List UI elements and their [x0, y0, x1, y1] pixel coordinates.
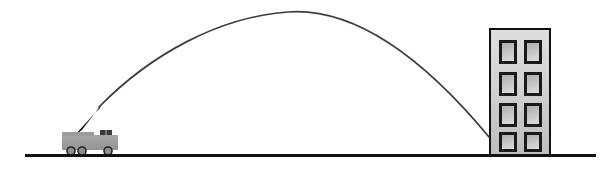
projectile-trajectory-path: [99, 12, 489, 137]
window-r1-c1: [501, 42, 516, 63]
window-r1-c2: [526, 42, 541, 63]
cannon-barrel: [74, 105, 101, 136]
window-r4-c1: [501, 134, 516, 151]
window-r2-c1: [501, 74, 516, 95]
window-r3-c2: [526, 105, 541, 126]
cannon-truck: [62, 105, 118, 155]
wheel-front: [104, 147, 112, 155]
truck-rear-deck: [62, 132, 94, 136]
window-r2-c2: [526, 74, 541, 95]
window-r3-c1: [501, 105, 516, 126]
window-r4-c2: [526, 134, 541, 151]
projectile-motion-diagram: [0, 0, 615, 171]
wheel-rear-1: [67, 147, 75, 155]
diagram-canvas: [0, 0, 615, 171]
target-building: [490, 29, 550, 155]
wheel-rear-2: [78, 147, 86, 155]
